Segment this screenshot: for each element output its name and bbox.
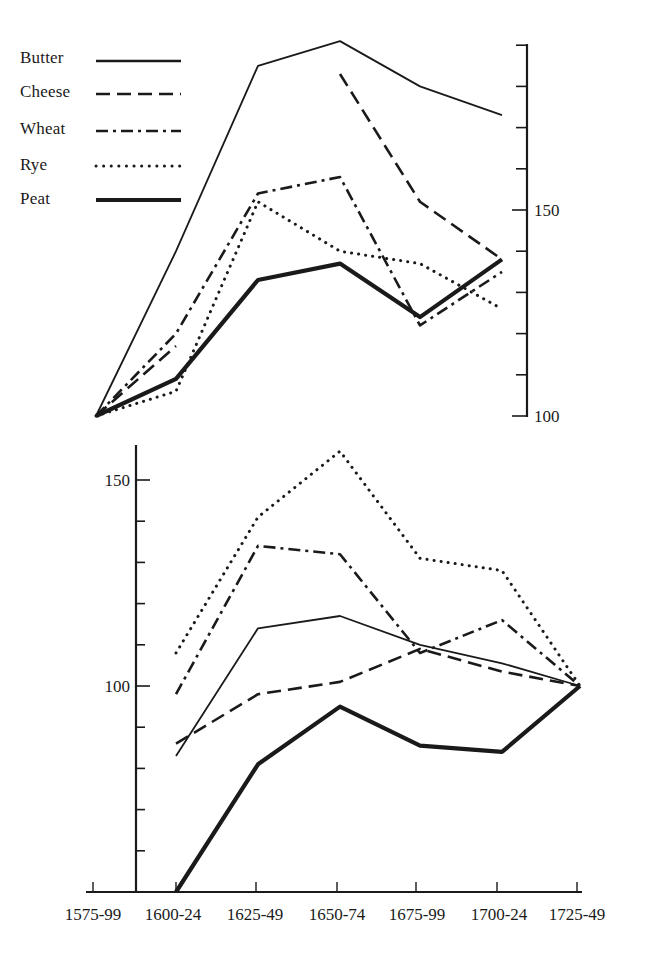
lower-y-axis: 100150 [105, 445, 151, 892]
upper-y-axis: 100150 [512, 44, 560, 426]
legend-item-rye: Rye [20, 155, 190, 175]
x-axis-tick-label: 1575-99 [65, 905, 122, 924]
series-line-wheat [96, 177, 502, 416]
legend-label: Butter [20, 48, 64, 68]
lower-plot-lines [176, 451, 580, 892]
x-axis-tick-label: 1600-24 [145, 905, 202, 924]
price-index-chart: 100150 100150 1575-991600-241625-491650-… [0, 0, 646, 955]
chart-canvas: 100150 100150 1575-991600-241625-491650-… [0, 0, 646, 955]
legend-label: Rye [20, 155, 47, 175]
series-line-rye [96, 202, 502, 416]
series-line-rye [176, 451, 580, 686]
series-line-cheese [340, 74, 502, 259]
legend-label: Wheat [20, 119, 65, 139]
x-axis-tick-label: 1625-49 [227, 905, 284, 924]
lower-axis-tick-label: 100 [105, 677, 131, 696]
legend-label: Cheese [20, 82, 70, 102]
legend-item-wheat: Wheat [20, 119, 190, 139]
legend-item-butter: Butter [20, 48, 190, 68]
legend-label: Peat [20, 189, 50, 209]
upper-axis-tick-label: 100 [534, 407, 560, 426]
legend-item-peat: Peat [20, 189, 190, 209]
series-line-cheese [96, 346, 176, 416]
x-axis: 1575-991600-241625-491650-741675-991700-… [65, 882, 606, 924]
series-line-peat [176, 686, 580, 892]
series-line-wheat [176, 546, 580, 694]
upper-axis-tick-label: 150 [534, 201, 560, 220]
x-axis-tick-label: 1725-49 [549, 905, 606, 924]
series-line-peat [96, 259, 502, 416]
x-axis-tick-label: 1650-74 [309, 905, 366, 924]
lower-axis-tick-label: 150 [105, 471, 131, 490]
x-axis-tick-label: 1700-24 [471, 905, 528, 924]
x-axis-tick-label: 1675-99 [389, 905, 446, 924]
legend-item-cheese: Cheese [20, 82, 190, 102]
